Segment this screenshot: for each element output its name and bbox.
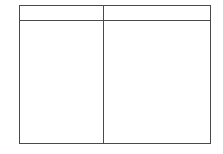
table-cell-left[interactable] <box>20 21 104 143</box>
table-header-cell-left[interactable] <box>20 6 104 20</box>
table-frame <box>19 5 211 144</box>
table-cell-right-text <box>104 21 210 143</box>
table-cell-left-text <box>20 21 103 143</box>
table-header-cell-left-text <box>20 6 103 20</box>
table-header-row <box>20 6 210 21</box>
table-cell-right[interactable] <box>104 21 210 143</box>
table-header-cell-right-text <box>104 6 210 20</box>
table-header-cell-right[interactable] <box>104 6 210 20</box>
page-canvas <box>0 0 223 154</box>
table-row <box>20 21 210 143</box>
